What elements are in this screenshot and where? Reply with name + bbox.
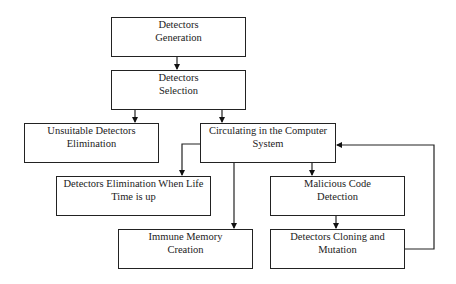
node-unsuitable-detectors-elimination: Unsuitable Detectors Elimination — [24, 123, 159, 163]
node-detectors-generation: Detectors Generation — [111, 17, 246, 57]
node-label-line: Immune Memory — [119, 231, 252, 244]
node-label-line: Elimination — [25, 138, 158, 151]
node-label-line: Detectors — [112, 72, 245, 85]
node-label-line: Generation — [112, 32, 245, 45]
node-immune-memory-creation: Immune Memory Creation — [118, 229, 253, 269]
node-label-line: Selection — [112, 85, 245, 98]
node-detectors-selection: Detectors Selection — [111, 70, 246, 110]
node-label-line: Detectors Cloning and — [271, 231, 404, 244]
node-label-line: Mutation — [271, 244, 404, 257]
node-label-line: Detectors Elimination When Life — [57, 178, 210, 191]
node-label-line: Detection — [271, 191, 404, 204]
node-circulating-computer-system: Circulating in the Computer System — [200, 123, 336, 163]
node-label-line: Time is up — [57, 191, 210, 204]
node-label-line: Circulating in the Computer — [201, 125, 335, 138]
node-label-line: Creation — [119, 244, 252, 257]
node-detectors-cloning-mutation: Detectors Cloning and Mutation — [270, 229, 405, 269]
arrow-circulating-lifetime — [182, 144, 200, 175]
node-label-line: Malicious Code — [271, 178, 404, 191]
node-detectors-elimination-lifetime: Detectors Elimination When Life Time is … — [56, 176, 211, 216]
node-label-line: Unsuitable Detectors — [25, 125, 158, 138]
node-label-line: System — [201, 138, 335, 151]
node-label-line: Detectors — [112, 19, 245, 32]
node-malicious-code-detection: Malicious Code Detection — [270, 176, 405, 216]
